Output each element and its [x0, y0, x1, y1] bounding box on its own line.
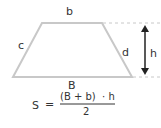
- trapezoid-figure: [0, 0, 161, 128]
- label-height: h: [150, 48, 157, 59]
- height-arrow-icon: [141, 25, 149, 75]
- formula-numerator: (B + b) · h: [60, 91, 115, 102]
- formula-equals: =: [45, 98, 54, 111]
- label-bottom-base: B: [68, 80, 76, 91]
- label-top-base: b: [66, 6, 73, 17]
- trapezoid-shape: [13, 23, 132, 77]
- trapezoid-diagram: b c d h B S = (B + b) · h 2: [0, 0, 161, 128]
- label-left-side: c: [18, 40, 24, 51]
- formula-lhs: S: [32, 99, 39, 112]
- formula-denominator: 2: [83, 106, 89, 117]
- label-right-side: d: [122, 47, 129, 58]
